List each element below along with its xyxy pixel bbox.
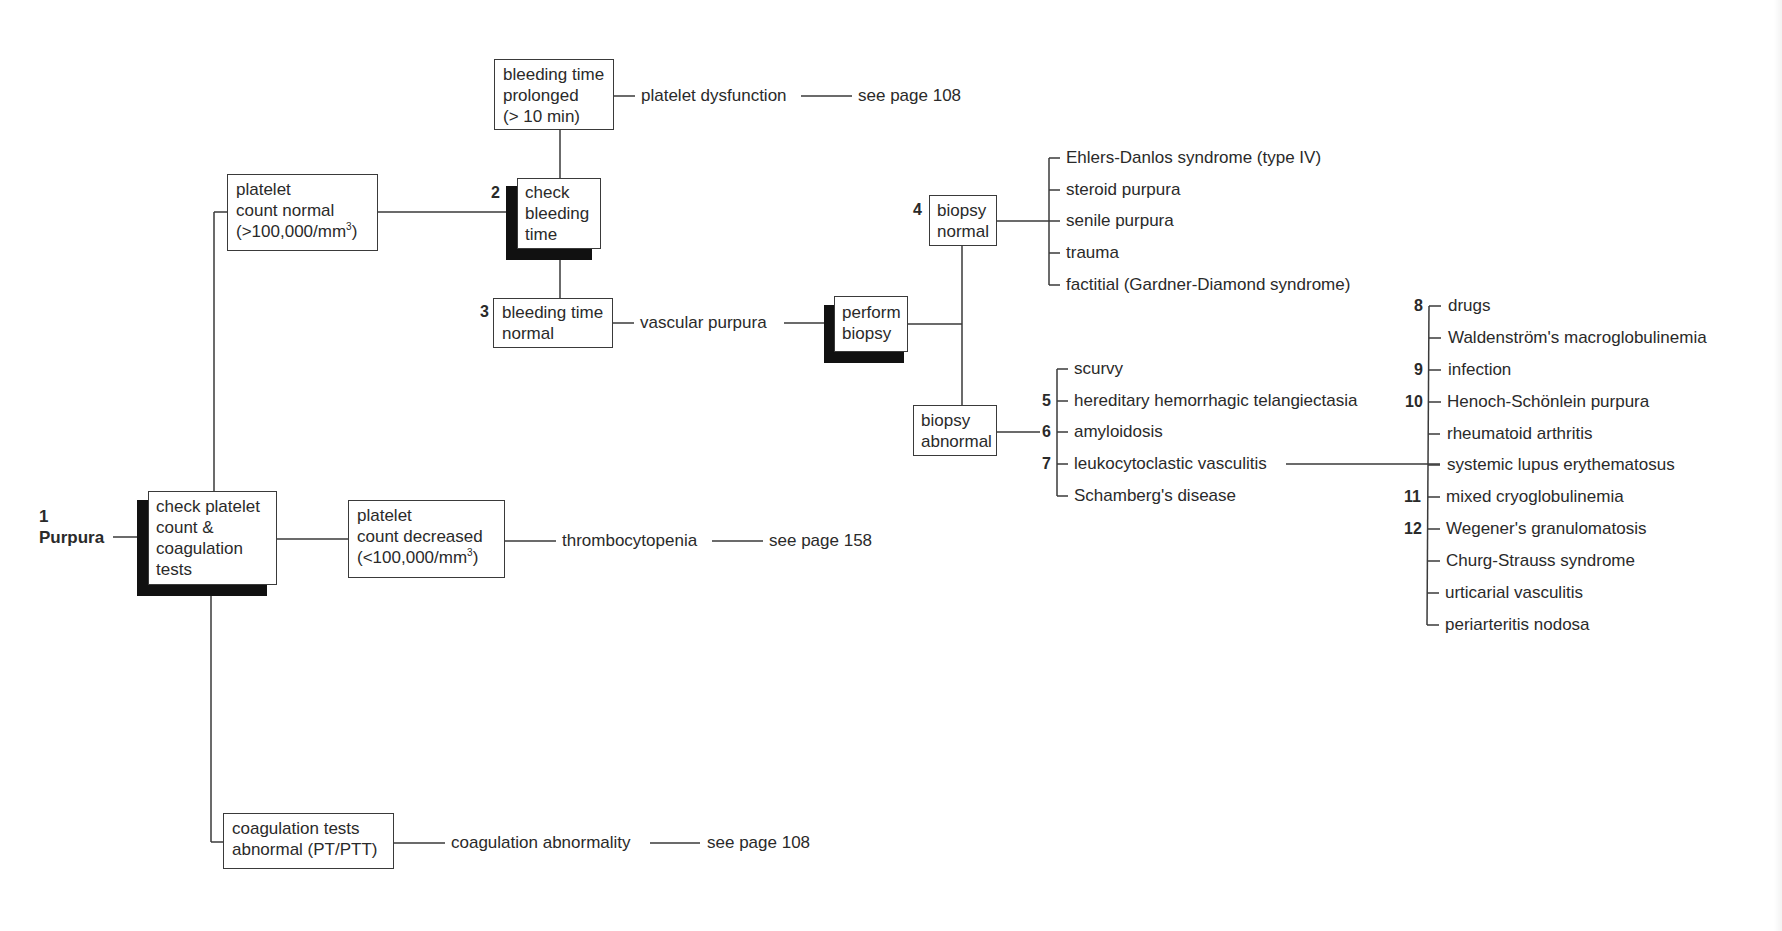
- box-line: check: [525, 182, 593, 203]
- cause-item: Waldenström's macroglobulinemia: [1448, 328, 1707, 348]
- box-line: check platelet: [156, 496, 269, 517]
- cause-item: infection: [1448, 360, 1511, 380]
- box-line: bleeding: [525, 203, 593, 224]
- platelet-count-normal-box[interactable]: platelet count normal (>100,000/mm3): [227, 174, 378, 251]
- page-ref-108-coag[interactable]: see page 108: [707, 833, 810, 853]
- biopsy-abnormal-box[interactable]: biopsy abnormal: [913, 405, 997, 456]
- step-number-4: 4: [913, 200, 922, 220]
- check-platelet-count-box[interactable]: check platelet count & coagulation tests: [148, 491, 277, 585]
- cause-item: Churg-Strauss syndrome: [1446, 551, 1635, 571]
- box-line: abnormal: [921, 431, 989, 452]
- perform-biopsy-box[interactable]: perform biopsy: [834, 296, 908, 352]
- box-line: platelet: [357, 505, 496, 526]
- cause-item: periarteritis nodosa: [1445, 615, 1590, 635]
- box-line: bleeding time: [503, 64, 605, 85]
- box-line: (> 10 min): [503, 106, 605, 127]
- page-ref-108-platelet[interactable]: see page 108: [858, 86, 961, 106]
- cause-item: mixed cryoglobulinemia: [1446, 487, 1624, 507]
- box-line: count normal: [236, 200, 369, 221]
- box-line: biopsy: [921, 410, 989, 431]
- box-line: normal: [937, 221, 989, 242]
- cause-item: senile purpura: [1066, 211, 1174, 231]
- step-number-12: 12: [1404, 519, 1422, 539]
- box-line: tests: [156, 559, 269, 580]
- cause-item: hereditary hemorrhagic telangiectasia: [1074, 391, 1358, 411]
- purpura-flowchart: 1 Purpura check platelet count & coagula…: [0, 0, 1782, 931]
- cause-item: scurvy: [1074, 359, 1123, 379]
- cause-item: Ehlers-Danlos syndrome (type IV): [1066, 148, 1321, 168]
- cause-item: drugs: [1448, 296, 1491, 316]
- box-line: coagulation: [156, 538, 269, 559]
- step-number-6: 6: [1042, 422, 1051, 442]
- outcome-thrombocytopenia: thrombocytopenia: [562, 531, 697, 551]
- box-line: count &: [156, 517, 269, 538]
- outcome-vascular-purpura: vascular purpura: [640, 313, 767, 333]
- box-line: time: [525, 224, 593, 245]
- cause-item: urticarial vasculitis: [1445, 583, 1583, 603]
- step-number-5: 5: [1042, 391, 1051, 411]
- step-number-3: 3: [480, 302, 489, 322]
- page-ref-158[interactable]: see page 158: [769, 531, 872, 551]
- box-line: platelet: [236, 179, 369, 200]
- box-line: biopsy: [937, 200, 989, 221]
- box-line: (>100,000/mm3): [236, 221, 369, 242]
- box-line: biopsy: [842, 323, 900, 344]
- cause-item: rheumatoid arthritis: [1447, 424, 1593, 444]
- box-line: prolonged: [503, 85, 605, 106]
- coagulation-tests-abnormal-box[interactable]: coagulation tests abnormal (PT/PTT): [223, 813, 394, 869]
- step-number-8: 8: [1414, 296, 1423, 316]
- biopsy-normal-box[interactable]: biopsy normal: [929, 195, 997, 246]
- cause-item: Wegener's granulomatosis: [1446, 519, 1646, 539]
- root-label: Purpura: [39, 527, 104, 548]
- bleeding-time-prolonged-box[interactable]: bleeding time prolonged (> 10 min): [494, 59, 614, 130]
- cause-item: Schamberg's disease: [1074, 486, 1236, 506]
- step-number-2: 2: [491, 183, 500, 203]
- platelet-count-decreased-box[interactable]: platelet count decreased (<100,000/mm3): [348, 500, 505, 578]
- cause-item: factitial (Gardner-Diamond syndrome): [1066, 275, 1350, 295]
- bleeding-time-normal-box[interactable]: bleeding time normal: [493, 298, 613, 348]
- box-line: perform: [842, 302, 900, 323]
- cause-item: Henoch-Schönlein purpura: [1447, 392, 1649, 412]
- cause-item: trauma: [1066, 243, 1119, 263]
- cause-item: systemic lupus erythematosus: [1447, 455, 1675, 475]
- box-line: count decreased: [357, 526, 496, 547]
- step-number-10: 10: [1405, 392, 1423, 412]
- box-line: (<100,000/mm3): [357, 547, 496, 568]
- step-number-7: 7: [1042, 454, 1051, 474]
- step-number-11: 11: [1404, 487, 1421, 507]
- outcome-coagulation-abnormality: coagulation abnormality: [451, 833, 631, 853]
- cause-item: leukocytoclastic vasculitis: [1074, 454, 1267, 474]
- box-line: normal: [502, 323, 604, 344]
- cause-item: amyloidosis: [1074, 422, 1163, 442]
- box-line: coagulation tests: [232, 818, 385, 839]
- box-line: abnormal (PT/PTT): [232, 839, 385, 860]
- root-number: 1: [39, 506, 48, 527]
- box-line: bleeding time: [502, 302, 604, 323]
- step-number-9: 9: [1414, 360, 1423, 380]
- outcome-platelet-dysfunction: platelet dysfunction: [641, 86, 787, 106]
- check-bleeding-time-box[interactable]: check bleeding time: [517, 178, 601, 249]
- cause-item: steroid purpura: [1066, 180, 1180, 200]
